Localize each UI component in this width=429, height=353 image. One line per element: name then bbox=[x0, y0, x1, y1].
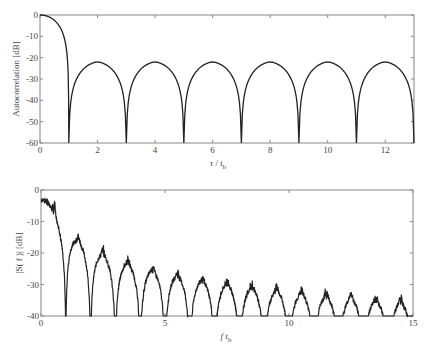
y-tick-label: 0 bbox=[34, 10, 39, 20]
y-tick-label: -40 bbox=[27, 311, 39, 321]
x-tick-label: 8 bbox=[268, 145, 273, 155]
y-tick-label: -30 bbox=[27, 280, 39, 290]
y-tick-label: -20 bbox=[27, 248, 39, 258]
y-tick-label: 0 bbox=[35, 185, 40, 195]
x-tick-label: 15 bbox=[409, 318, 419, 328]
top-plot-frame bbox=[40, 15, 414, 143]
y-tick-label: -50 bbox=[26, 117, 38, 127]
y-tick-label: -30 bbox=[26, 74, 38, 84]
y-tick-label: -10 bbox=[27, 217, 39, 227]
x-tick-label: 4 bbox=[153, 145, 158, 155]
top-plot: 0246810120-10-20-30-40-50-60 Autocorrela… bbox=[11, 10, 414, 171]
top-y-axis-label: Autocorrelation [dB] bbox=[11, 41, 21, 117]
bottom-y-axis-label: |S( f )| [dB] bbox=[14, 233, 24, 274]
x-tick-label: 2 bbox=[95, 145, 100, 155]
x-tick-label: 5 bbox=[163, 318, 168, 328]
y-tick-label: -20 bbox=[26, 53, 38, 63]
spectrum-line bbox=[41, 199, 413, 316]
x-tick-label: 12 bbox=[381, 145, 390, 155]
bottom-plot-frame bbox=[41, 190, 413, 316]
y-tick-label: -40 bbox=[26, 95, 38, 105]
x-tick-label: 10 bbox=[285, 318, 295, 328]
y-tick-label: -60 bbox=[26, 138, 38, 148]
x-tick-label: 0 bbox=[39, 318, 44, 328]
x-tick-label: 6 bbox=[210, 145, 215, 155]
bottom-plot: 0510150-10-20-30-40 |S( f )| [dB] f tb bbox=[14, 185, 418, 344]
top-x-axis-label: τ / tb bbox=[210, 158, 227, 171]
bottom-x-axis-label: f tb bbox=[221, 331, 232, 344]
x-tick-label: 10 bbox=[323, 145, 333, 155]
x-tick-label: 0 bbox=[38, 145, 43, 155]
y-tick-label: -10 bbox=[26, 31, 38, 41]
chart-figure: 0246810120-10-20-30-40-50-60 Autocorrela… bbox=[0, 0, 429, 353]
autocorrelation-line bbox=[40, 15, 414, 143]
